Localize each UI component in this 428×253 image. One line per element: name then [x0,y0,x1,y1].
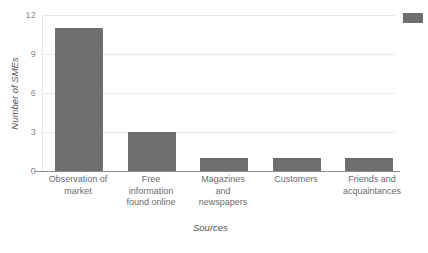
y-tick-label-12: 12 [10,10,36,20]
x-tick-label-line: acquaintances [325,186,419,198]
legend-swatch-icon [403,13,423,23]
x-tick-label-line: newspapers [180,197,266,209]
x-axis-category-labels: Observation ofmarket Freeinformationfoun… [42,174,395,244]
x-tick-label-friends-and-acquaintances: Friends andacquaintances [325,174,419,197]
x-axis-line [34,171,400,172]
bar-free-information-found-online [128,132,176,171]
y-tick-label-6: 6 [10,88,36,98]
bar-friends-and-acquaintances [345,158,393,171]
bar-customers [273,158,321,171]
x-tick-label-line: Friends and [325,174,419,186]
bar-observation-of-market [55,28,103,171]
plot-area [42,15,395,171]
y-axis-ticks: 12 9 6 3 0 [6,0,36,253]
y-tick-label-3: 3 [10,127,36,137]
x-tick-label-line: and [180,186,266,198]
bar-magazines-and-newspapers [200,158,248,171]
x-axis-title: Sources [193,222,228,233]
chart-title [0,0,428,1]
legend [403,13,427,23]
bar-chart: Number of SMEs 12 9 6 3 0 Observation of… [0,0,428,253]
y-tick-label-9: 9 [10,49,36,59]
gridline-12 [42,15,395,16]
y-tick-label-0: 0 [10,166,36,176]
